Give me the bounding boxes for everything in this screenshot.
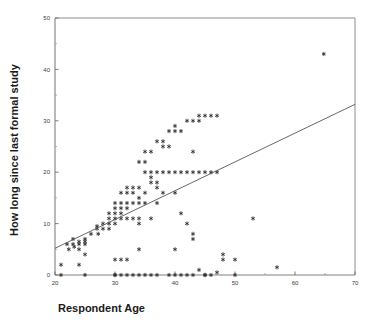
x-tick-label: 30 [112,280,119,286]
y-axis-title: How long since last formal study [8,63,20,236]
x-tick-label: 20 [52,280,59,286]
x-tick-label: 40 [172,280,179,286]
y-tick-label: 10 [43,221,50,227]
figure-background [0,0,380,326]
y-tick-label: 30 [43,118,50,124]
y-tick-label: 20 [43,169,50,175]
x-tick-label: 70 [352,280,359,286]
x-tick-label: 50 [232,280,239,286]
y-tick-label: 40 [43,67,50,73]
y-tick-label: 50 [43,15,50,21]
x-axis-title: Respondent Age [58,302,145,314]
scatter-plot-figure: 203040506070 01020304050 Respondent Age … [0,0,380,326]
x-tick-label: 60 [292,280,299,286]
